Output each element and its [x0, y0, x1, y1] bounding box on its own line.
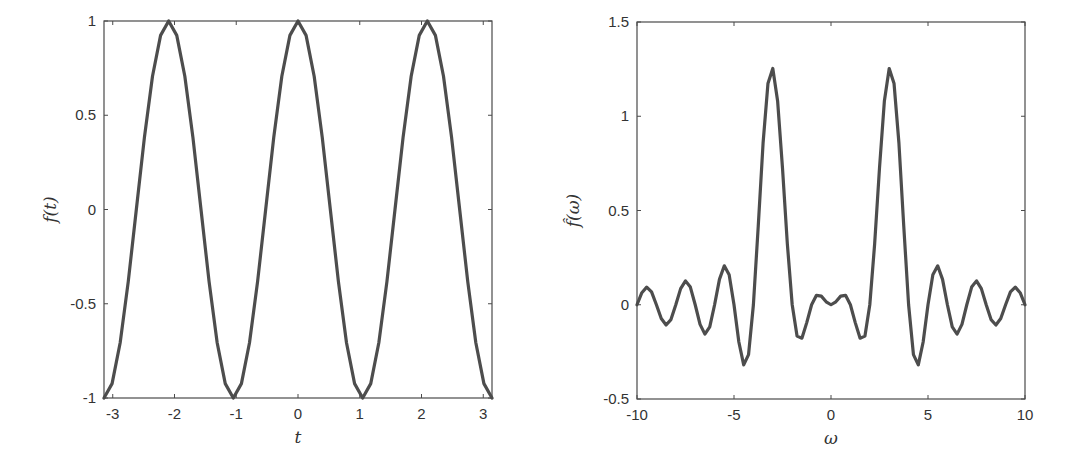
x-tick-label: -3	[106, 405, 119, 422]
data-line	[104, 21, 492, 398]
y-tick-label: 1.5	[608, 13, 629, 30]
axes-frame	[637, 22, 1025, 399]
y-axis-label: f(t)	[40, 196, 60, 224]
y-tick-label: -1	[83, 389, 96, 406]
x-tick-label: 5	[924, 406, 932, 423]
figure: -3-2-10123-1-0.500.51tf(t) -10-50510-0.5…	[0, 0, 1089, 468]
x-tick-label: 2	[417, 405, 425, 422]
time-domain-plot: -3-2-10123-1-0.500.51tf(t)	[40, 12, 492, 447]
y-tick-label: -0.5	[70, 295, 96, 312]
y-tick-label: 0.5	[608, 202, 629, 219]
y-tick-label: 0	[621, 296, 629, 313]
x-axis-label: ω	[824, 428, 838, 448]
axes-frame	[104, 21, 492, 398]
x-tick-label: -1	[230, 405, 243, 422]
y-axis-label: f̂(ω)	[563, 194, 583, 229]
x-tick-label: -2	[168, 405, 181, 422]
y-tick-label: 0.5	[75, 106, 96, 123]
x-tick-label: 1	[356, 405, 364, 422]
y-tick-label: -0.5	[603, 390, 629, 407]
x-tick-label: 0	[294, 405, 302, 422]
y-tick-label: 1	[88, 12, 96, 29]
data-line	[637, 69, 1025, 365]
frequency-domain-plot: -10-50510-0.500.511.5ωf̂(ω)	[563, 13, 1033, 448]
x-tick-label: 3	[479, 405, 487, 422]
y-tick-label: 1	[621, 107, 629, 124]
y-tick-label: 0	[88, 201, 96, 218]
x-tick-label: 10	[1017, 406, 1034, 423]
x-tick-label: 0	[827, 406, 835, 423]
x-tick-label: -10	[626, 406, 648, 423]
x-tick-label: -5	[727, 406, 740, 423]
x-axis-label: t	[295, 427, 302, 447]
